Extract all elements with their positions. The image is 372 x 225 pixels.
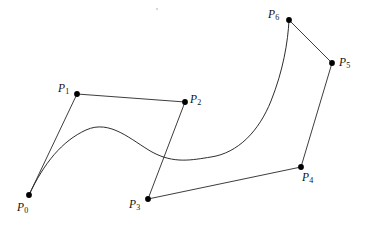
control-point-dot-p6 (286, 17, 292, 23)
point-label-p1: P1 (58, 83, 69, 96)
control-polygon-segment-p1-p2 (77, 94, 185, 102)
point-label-subscript: 6 (275, 13, 279, 22)
point-label-subscript: 1 (65, 87, 69, 96)
control-point-dot-p5 (329, 60, 335, 66)
point-label-p6: P6 (268, 9, 279, 22)
figure-canvas: P0P1P2P3P4P5P6 (0, 0, 372, 225)
point-label-letter: P (190, 93, 197, 105)
point-label-subscript: 0 (24, 206, 28, 215)
control-point-dot-p4 (298, 164, 304, 170)
control-polygon-segment-p4-p5 (301, 63, 332, 167)
spline-curve (29, 20, 289, 195)
point-label-p3: P3 (129, 199, 140, 212)
point-label-p4: P4 (302, 172, 313, 185)
control-polygon-segment-p2-p3 (148, 102, 185, 199)
control-polygon-segment-p3-p4 (148, 167, 301, 199)
control-point-dot-p2 (182, 99, 188, 105)
control-point-dot-p3 (145, 196, 151, 202)
control-polygon-segment-p5-p6 (289, 20, 332, 63)
point-label-p0: P0 (17, 202, 28, 215)
point-label-letter: P (58, 82, 65, 94)
point-label-p2: P2 (190, 94, 201, 107)
point-label-letter: P (17, 201, 24, 213)
point-label-p5: P5 (339, 57, 350, 70)
point-label-letter: P (268, 8, 275, 20)
point-label-letter: P (302, 171, 309, 183)
point-label-letter: P (339, 56, 346, 68)
point-label-subscript: 4 (309, 176, 313, 185)
point-label-subscript: 2 (197, 98, 201, 107)
point-label-subscript: 3 (136, 203, 140, 212)
point-label-letter: P (129, 198, 136, 210)
control-point-dots-group (26, 17, 335, 202)
control-point-dot-p0 (26, 192, 32, 198)
bezier-diagram-svg (0, 0, 372, 225)
control-point-dot-p1 (74, 91, 80, 97)
control-polygon-segment-p0-p1 (29, 94, 77, 195)
point-label-subscript: 5 (346, 61, 350, 70)
scan-speck (156, 8, 158, 10)
